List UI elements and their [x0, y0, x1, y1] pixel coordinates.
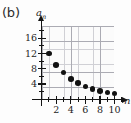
x-minor-tick-3	[63, 97, 64, 102]
x-minor-tick-9	[107, 97, 108, 102]
y-axis-line	[41, 20, 42, 106]
x-tick-6	[85, 96, 86, 104]
x-minor-tick-5	[78, 97, 79, 102]
y-tick-label-12: 12	[25, 49, 37, 59]
data-point	[112, 91, 118, 97]
x-tick-label-2: 2	[49, 105, 63, 115]
x-tick-label-10: 10	[108, 105, 122, 115]
y-minor-tick-18	[39, 30, 44, 31]
y-tick-label-4: 4	[31, 79, 37, 89]
x-tick-10	[114, 96, 115, 104]
y-tick-12	[38, 53, 46, 54]
y-minor-tick-14	[39, 45, 44, 46]
x-minor-tick-7	[92, 97, 93, 102]
x-minor-tick-11	[121, 97, 122, 102]
y-tick-4	[38, 83, 46, 84]
x-tick-2	[56, 96, 57, 104]
y-tick-16	[38, 38, 46, 39]
y-minor-tick-10	[39, 61, 44, 62]
x-axis-label: n	[124, 95, 130, 106]
data-point	[53, 62, 59, 68]
x-tick-label-8: 8	[93, 105, 107, 115]
data-point	[46, 51, 52, 57]
x-minor-tick-1	[48, 97, 49, 102]
y-minor-tick-6	[39, 76, 44, 77]
scatter-plot: an n 481216 246810	[0, 0, 131, 123]
data-point	[97, 88, 103, 94]
y-axis-label: an	[36, 7, 46, 21]
x-tick-label-4: 4	[64, 105, 78, 115]
x-tick-8	[99, 96, 100, 104]
y-tick-8	[38, 68, 46, 69]
data-point	[75, 80, 81, 86]
y-tick-label-16: 16	[25, 33, 37, 43]
y-axis-label-subscript: n	[42, 13, 46, 21]
data-point	[68, 76, 74, 82]
y-minor-tick-2	[39, 91, 44, 92]
x-tick-label-6: 6	[78, 105, 92, 115]
x-tick-4	[70, 96, 71, 104]
y-tick-label-8: 8	[31, 64, 37, 74]
figure-panel-b: (b) an n 481216 246810	[0, 0, 131, 123]
